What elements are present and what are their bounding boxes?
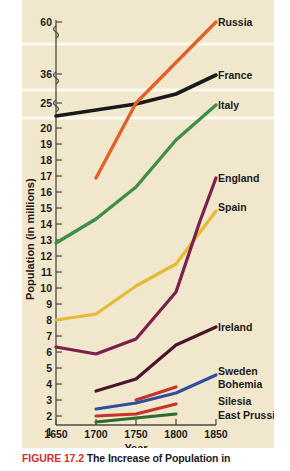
series-label-russia: Russia	[218, 16, 253, 28]
y-tick-label: 60	[40, 16, 52, 28]
y-tick-label: 19	[40, 138, 52, 150]
series-label-france: France	[218, 69, 253, 81]
right-margin	[274, 0, 290, 471]
population-growth-line-chart: 60 36 25 20 19 18 17 16 15 14 13 12 11 1…	[0, 0, 290, 471]
y-tick-label: 17	[40, 170, 52, 182]
x-tick-label: 1850	[204, 428, 228, 440]
series-label-bohemia: Bohemia	[218, 378, 263, 390]
y-tick-label: 9	[46, 298, 52, 310]
y-axis-title: Population (in millions)	[24, 178, 36, 300]
series-label-sweden: Sweden	[218, 365, 258, 377]
figure-caption-text: The Increase of Population in	[84, 452, 230, 464]
inline-series-labels: Russia France Italy England Spain Irelan…	[218, 16, 281, 421]
y-tick-label: 20	[40, 122, 52, 134]
y-tick-label: 6	[46, 346, 52, 358]
x-tick-label: 1650	[44, 428, 68, 440]
series-line-france	[56, 75, 216, 116]
series-line-italy	[56, 105, 216, 243]
y-tick-label: 11	[41, 266, 52, 278]
x-tick-label: 1750	[124, 428, 148, 440]
series-label-spain: Spain	[218, 201, 247, 213]
y-tick-label: 5	[46, 362, 52, 374]
y-tick-label: 12	[40, 250, 52, 262]
y-tick-label: 3	[46, 394, 52, 406]
series-group	[56, 22, 216, 422]
series-label-east-prussia: East Prussia	[218, 409, 281, 421]
figure-number: FIGURE 17.2	[22, 452, 84, 464]
left-margin	[0, 0, 22, 471]
x-tick-label: 1800	[164, 428, 188, 440]
series-label-silesia: Silesia	[218, 395, 251, 407]
series-label-italy: Italy	[218, 99, 239, 111]
y-tick-label: 14	[40, 218, 52, 230]
figure-caption: FIGURE 17.2 The Increase of Population i…	[22, 452, 274, 471]
y-tick-label: 18	[40, 154, 52, 166]
y-tick-label: 8	[46, 314, 52, 326]
y-tick-label: 2	[46, 410, 52, 422]
y-axis: 60 36 25 20 19 18 17 16 15 14 13 12 11 1…	[24, 16, 62, 438]
y-tick-label: 13	[40, 234, 52, 246]
series-label-ireland: Ireland	[218, 321, 252, 333]
series-line-england	[56, 178, 216, 354]
x-tick-label: 1700	[84, 428, 108, 440]
series-label-england: England	[218, 172, 259, 184]
y-tick-label: 25	[40, 97, 52, 109]
y-tick-label: 15	[40, 202, 52, 214]
y-tick-label: 16	[40, 186, 52, 198]
y-tick-label: 7	[46, 330, 52, 342]
y-tick-label: 4	[46, 378, 52, 390]
figure-root: 60 36 25 20 19 18 17 16 15 14 13 12 11 1…	[0, 0, 290, 471]
y-tick-label: 10	[40, 282, 52, 294]
y-tick-label: 36	[40, 68, 52, 80]
